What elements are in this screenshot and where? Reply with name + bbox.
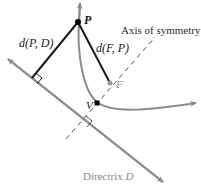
label-d-f-p: d(F, P) [96,42,129,54]
label-p: P [84,14,91,26]
label-d-p-d: d(P, D) [19,37,53,49]
point-p-dot [75,19,81,25]
label-directrix: Directrix D [83,171,133,182]
segment-p-to-directrix [32,22,78,78]
label-directrix-symbol: D [125,170,133,182]
parabola-up-arrow [79,3,80,20]
label-f: F [116,79,123,90]
label-directrix-word: Directrix [83,170,123,182]
directrix-line [8,59,163,182]
label-axis-of-symmetry: Axis of symmetry [121,25,200,36]
parabola-diagram: P d(P, D) d(F, P) Axis of symmetry F V D… [0,0,201,189]
point-v-dot [95,101,100,106]
point-f-dot [108,81,113,86]
label-v: V [86,100,93,111]
